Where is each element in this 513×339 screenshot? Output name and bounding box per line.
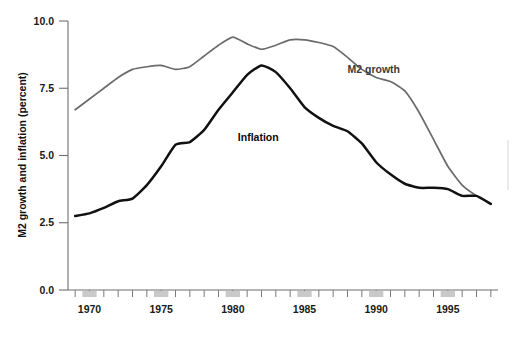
x-tick-label: 1980 <box>221 303 245 315</box>
chart-figure: 0.02.55.07.510.0 19701975198019851990199… <box>0 0 513 339</box>
x-tick-label: 1995 <box>436 303 460 315</box>
y-axis-title: M2 growth and inflation (percent) <box>16 72 28 238</box>
series-label-m2-growth: M2 growth <box>348 63 401 75</box>
y-tick-label: 7.5 <box>39 82 54 94</box>
x-tick-group <box>75 290 491 297</box>
line-chart-canvas: 0.02.55.07.510.0 19701975198019851990199… <box>0 0 513 339</box>
x-tick-highlight <box>82 291 96 297</box>
x-tick-highlight <box>226 291 240 297</box>
x-tick-label-group: 197019751980198519901995 <box>78 303 460 315</box>
x-tick-label: 1985 <box>293 303 317 315</box>
y-tick-label: 0.0 <box>39 284 54 296</box>
x-tick-label: 1970 <box>78 303 102 315</box>
y-tick-label-group: 0.02.55.07.510.0 <box>34 15 55 296</box>
x-tick-highlight <box>297 291 311 297</box>
x-tick-highlight <box>441 291 455 297</box>
series-label-inflation: Inflation <box>238 131 279 143</box>
x-tick-highlight-group <box>82 291 455 297</box>
series-annotation-group: M2 growthInflation <box>238 63 400 142</box>
series-group <box>75 37 491 216</box>
x-tick-highlight <box>154 291 168 297</box>
x-tick-highlight <box>369 291 383 297</box>
y-tick-label: 2.5 <box>39 216 54 228</box>
x-tick-label: 1975 <box>149 303 173 315</box>
y-tick-group <box>59 21 68 290</box>
y-tick-label: 5.0 <box>39 149 54 161</box>
x-tick-label: 1990 <box>364 303 388 315</box>
series-line-inflation <box>75 65 491 216</box>
y-tick-label: 10.0 <box>34 15 55 27</box>
series-line-m2-growth <box>75 37 491 204</box>
